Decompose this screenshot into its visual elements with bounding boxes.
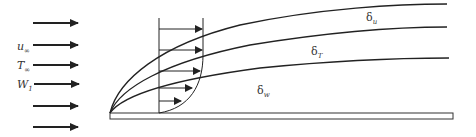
label-t-infinity: T∞ <box>17 60 30 74</box>
label-delta-t: δT <box>311 46 322 60</box>
label-u-infinity: u∞ <box>17 41 30 55</box>
label-delta-w: δw <box>257 85 270 99</box>
velocity-profile <box>159 18 203 113</box>
label-w1: W1 <box>17 79 33 93</box>
thermal-boundary-layer-curve <box>110 27 447 113</box>
free-stream-arrows <box>33 23 79 127</box>
flat-plate <box>110 113 453 119</box>
concentration-boundary-layer-curve <box>110 58 449 113</box>
label-delta-u: δu <box>366 12 377 26</box>
boundary-layer-diagram <box>0 0 476 137</box>
